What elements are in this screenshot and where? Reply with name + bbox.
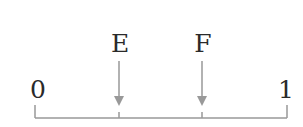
- number-line-diagram: 0 1 E F: [0, 0, 303, 127]
- point-label-f: F: [194, 29, 211, 58]
- arrow-down-icon: [114, 61, 124, 106]
- label-end: 1: [278, 75, 294, 104]
- point-label-e: E: [111, 29, 129, 58]
- label-start: 0: [30, 75, 46, 104]
- arrow-down-icon: [197, 61, 207, 106]
